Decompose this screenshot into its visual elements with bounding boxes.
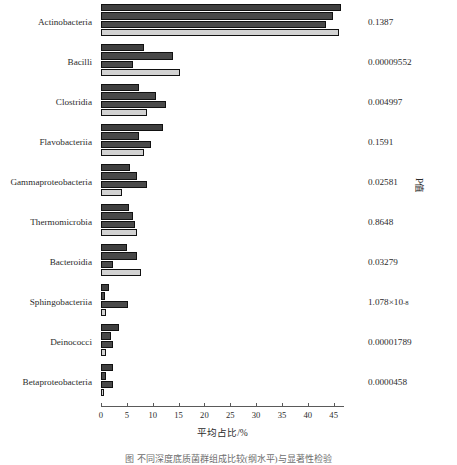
bar bbox=[101, 61, 133, 68]
bar bbox=[101, 29, 339, 36]
bar bbox=[101, 269, 141, 276]
bar bbox=[101, 284, 109, 291]
bar bbox=[101, 341, 113, 348]
bar-group bbox=[101, 162, 351, 202]
x-axis-tick-label: 10 bbox=[148, 410, 157, 420]
x-axis-tick-label: 45 bbox=[329, 410, 338, 420]
bar bbox=[101, 4, 341, 11]
bar bbox=[101, 309, 106, 316]
taxon-label: Bacilli bbox=[0, 42, 96, 82]
bar bbox=[101, 324, 119, 331]
x-axis-tick bbox=[153, 403, 154, 406]
p-value-label: 1.078×10-8 bbox=[368, 282, 409, 322]
bar bbox=[101, 84, 139, 91]
chart-group-row: Betaproteobacteria0.0000458 bbox=[0, 362, 457, 402]
x-axis-tick-label: 25 bbox=[226, 410, 235, 420]
bar-group bbox=[101, 362, 351, 402]
bar bbox=[101, 172, 137, 179]
chart-group-row: Bacteroidia0.03279 bbox=[0, 242, 457, 282]
x-axis-tick-label: 0 bbox=[99, 410, 103, 420]
chart-group-row: Thermomicrobia0.8648 bbox=[0, 202, 457, 242]
bar bbox=[101, 292, 105, 299]
p-value-label: 0.02581 bbox=[368, 162, 398, 202]
taxon-label: Actinobacteria bbox=[0, 2, 96, 42]
bar-group bbox=[101, 242, 351, 282]
figure-caption: 图 不同深度底质菌群组成比较(纲水平)与显著性检验 bbox=[0, 452, 457, 465]
x-axis-title: 平均占比/% bbox=[101, 425, 344, 439]
bar-group bbox=[101, 42, 351, 82]
bar bbox=[101, 389, 104, 396]
bar bbox=[101, 69, 180, 76]
taxon-label: Deinococci bbox=[0, 322, 96, 362]
bar bbox=[101, 212, 133, 219]
x-axis-tick bbox=[127, 403, 128, 406]
bar bbox=[101, 189, 122, 196]
bar-group bbox=[101, 202, 351, 242]
chart-group-row: Gammaproteobacteria0.02581 bbox=[0, 162, 457, 202]
taxon-label: Betaproteobacteria bbox=[0, 362, 96, 402]
x-axis-tick-label: 35 bbox=[278, 410, 287, 420]
bar bbox=[101, 221, 135, 228]
bar bbox=[101, 149, 144, 156]
x-axis-line bbox=[101, 406, 344, 407]
p-value-label: 0.00001789 bbox=[368, 322, 412, 362]
x-axis-tick-label: 20 bbox=[200, 410, 209, 420]
chart-group-row: Actinobacteria0.1387 bbox=[0, 2, 457, 42]
bar bbox=[101, 124, 163, 131]
x-axis-tick-label: 15 bbox=[174, 410, 183, 420]
bar bbox=[101, 381, 113, 388]
bar bbox=[101, 229, 137, 236]
bar bbox=[101, 261, 113, 268]
p-value-label: 0.1591 bbox=[368, 122, 393, 162]
x-axis-tick-label: 30 bbox=[252, 410, 261, 420]
chart-group-row: Bacilli0.00009552 bbox=[0, 42, 457, 82]
p-value-label: 0.1387 bbox=[368, 2, 393, 42]
x-axis-tick bbox=[204, 403, 205, 406]
taxon-label: Gammaproteobacteria bbox=[0, 162, 96, 202]
p-value-label: 0.00009552 bbox=[368, 42, 412, 82]
p-value-label: 0.03279 bbox=[368, 242, 398, 282]
bar bbox=[101, 204, 129, 211]
x-axis-tick bbox=[256, 403, 257, 406]
x-axis-tick bbox=[282, 403, 283, 406]
taxon-label: Bacteroidia bbox=[0, 242, 96, 282]
bar bbox=[101, 252, 137, 259]
bar bbox=[101, 181, 147, 188]
bar bbox=[101, 52, 173, 59]
chart-group-row: Sphingobacteriia1.078×10-8 bbox=[0, 282, 457, 322]
bar-group bbox=[101, 282, 351, 322]
chart-plot-area: Actinobacteria0.1387Bacilli0.00009552Clo… bbox=[0, 0, 457, 400]
bar bbox=[101, 141, 151, 148]
bar bbox=[101, 364, 113, 371]
x-axis-tick bbox=[179, 403, 180, 406]
taxon-label: Sphingobacteriia bbox=[0, 282, 96, 322]
taxon-label: Thermomicrobia bbox=[0, 202, 96, 242]
bar bbox=[101, 164, 130, 171]
bar bbox=[101, 92, 156, 99]
bar bbox=[101, 332, 111, 339]
taxon-label: Clostridia bbox=[0, 82, 96, 122]
bar-group bbox=[101, 322, 351, 362]
bar bbox=[101, 109, 147, 116]
bar-group bbox=[101, 122, 351, 162]
taxon-label: Flavobacteriia bbox=[0, 122, 96, 162]
x-axis-tick-label: 40 bbox=[304, 410, 313, 420]
bar bbox=[101, 21, 326, 28]
x-axis-tick bbox=[230, 403, 231, 406]
bar bbox=[101, 44, 144, 51]
bar bbox=[101, 372, 106, 379]
chart-group-row: Deinococci0.00001789 bbox=[0, 322, 457, 362]
bar bbox=[101, 244, 127, 251]
p-value-label: 0.0000458 bbox=[368, 362, 407, 402]
chart-group-row: Clostridia0.004997 bbox=[0, 82, 457, 122]
x-axis-tick bbox=[101, 403, 102, 406]
right-axis-title: P值 bbox=[413, 178, 427, 192]
x-axis-tick bbox=[308, 403, 309, 406]
p-value-label: 0.8648 bbox=[368, 202, 393, 242]
bar bbox=[101, 101, 166, 108]
x-axis-tick bbox=[334, 403, 335, 406]
bar bbox=[101, 132, 139, 139]
bar bbox=[101, 12, 333, 19]
bar-group bbox=[101, 82, 351, 122]
